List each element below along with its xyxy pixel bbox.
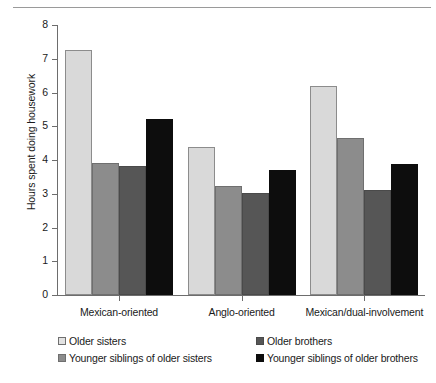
legend-label: Younger siblings of older brothers: [267, 352, 418, 364]
figure: Hours spent doing housework 012345678Mex…: [0, 0, 436, 383]
y-tick: 3: [52, 194, 57, 195]
x-tick: [242, 296, 243, 301]
y-tick: 2: [52, 228, 57, 229]
bar: [146, 119, 173, 295]
x-tick: [119, 296, 120, 301]
y-tick-label: 2: [42, 221, 48, 233]
legend: Older sistersOlder brothersYounger sibli…: [58, 332, 430, 366]
bar: [269, 170, 296, 295]
bar: [215, 186, 242, 295]
y-axis-line: [57, 25, 58, 296]
legend-swatch: [58, 337, 66, 345]
x-axis-category-label: Mexican/dual-involvement: [284, 306, 436, 318]
legend-label: Older sisters: [69, 335, 126, 347]
y-tick-label: 0: [42, 288, 48, 300]
bar: [65, 50, 92, 295]
axes: 012345678Mexican-orientedAnglo-orientedM…: [57, 25, 425, 295]
x-tick: [364, 296, 365, 301]
bar: [92, 163, 119, 295]
plot-area: Hours spent doing housework 012345678Mex…: [0, 18, 436, 318]
bar: [242, 193, 269, 295]
y-tick-label: 8: [42, 18, 48, 30]
y-tick-label: 4: [42, 153, 48, 165]
legend-item: Older sisters: [58, 335, 256, 347]
y-tick: 1: [52, 261, 57, 262]
y-tick: 8: [52, 25, 57, 26]
y-axis-label: Hours spent doing housework: [25, 17, 37, 267]
y-tick-label: 1: [42, 254, 48, 266]
y-tick-label: 3: [42, 187, 48, 199]
bar: [364, 190, 391, 295]
legend-label: Younger siblings of older sisters: [69, 352, 212, 364]
legend-item: Younger siblings of older sisters: [58, 352, 256, 364]
legend-swatch: [58, 354, 66, 362]
bar: [337, 138, 364, 295]
legend-item: Younger siblings of older brothers: [256, 352, 430, 364]
legend-swatch: [256, 354, 264, 362]
y-tick: 5: [52, 126, 57, 127]
legend-item: Older brothers: [256, 335, 430, 347]
y-tick: 6: [52, 93, 57, 94]
y-tick-label: 6: [42, 86, 48, 98]
legend-label: Older brothers: [267, 335, 332, 347]
bar: [188, 147, 215, 296]
y-tick: 0: [52, 295, 57, 296]
y-tick-label: 5: [42, 119, 48, 131]
bar: [119, 166, 146, 295]
bar: [391, 164, 418, 295]
y-tick-label: 7: [42, 52, 48, 64]
y-tick: 4: [52, 160, 57, 161]
bar: [310, 86, 337, 295]
top-divider: [13, 7, 431, 8]
y-tick: 7: [52, 59, 57, 60]
legend-swatch: [256, 337, 264, 345]
